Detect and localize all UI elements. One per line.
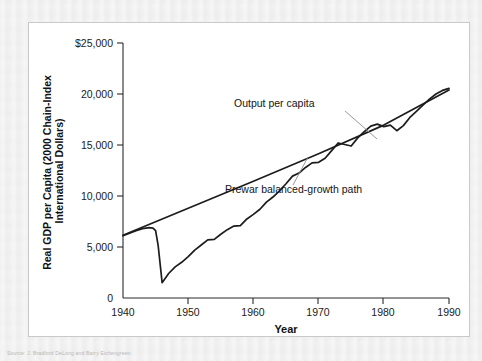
y-axis-tick-labels: $25,000 20,000 15,000 10,000 5,000 0 bbox=[75, 37, 113, 304]
x-axis-ticks bbox=[188, 298, 449, 304]
series-line-prewar-path bbox=[123, 90, 449, 235]
line-chart: $25,000 20,000 15,000 10,000 5,000 0 194… bbox=[29, 23, 469, 336]
y-tick-label-25000: $25,000 bbox=[75, 37, 113, 49]
x-tick-label-1950: 1950 bbox=[176, 306, 200, 318]
svg-text:Real GDP per Capita (2000 Chai: Real GDP per Capita (2000 Chain-Index In… bbox=[41, 72, 65, 270]
x-axis-tick-labels: 1940 1950 1960 1970 1980 1990 bbox=[111, 306, 461, 318]
y-tick-label-15000: 15,000 bbox=[81, 139, 113, 151]
y-tick-label-20000: 20,000 bbox=[81, 88, 113, 100]
x-tick-label-1960: 1960 bbox=[241, 306, 265, 318]
figure-container: $25,000 20,000 15,000 10,000 5,000 0 194… bbox=[28, 22, 470, 337]
x-tick-label-1970: 1970 bbox=[306, 306, 330, 318]
y-tick-label-0: 0 bbox=[107, 292, 113, 304]
annotation-label-output-per-capita: Output per capita bbox=[234, 97, 315, 109]
y-axis-ticks bbox=[117, 43, 123, 247]
x-tick-label-1940: 1940 bbox=[111, 306, 135, 318]
y-tick-label-5000: 5,000 bbox=[87, 241, 113, 253]
y-axis-title: Real GDP per Capita (2000 Chain-Index In… bbox=[41, 72, 65, 270]
annotation-label-prewar-path: Prewar balanced-growth path bbox=[225, 183, 362, 195]
annotation-output-per-capita: Output per capita bbox=[234, 97, 377, 139]
x-axis-title: Year bbox=[274, 323, 298, 335]
source-note: Source: J. Bradford DeLong and Barry Eic… bbox=[7, 350, 132, 356]
y-tick-label-10000: 10,000 bbox=[81, 190, 113, 202]
x-tick-label-1990: 1990 bbox=[437, 306, 461, 318]
x-tick-label-1980: 1980 bbox=[371, 306, 395, 318]
